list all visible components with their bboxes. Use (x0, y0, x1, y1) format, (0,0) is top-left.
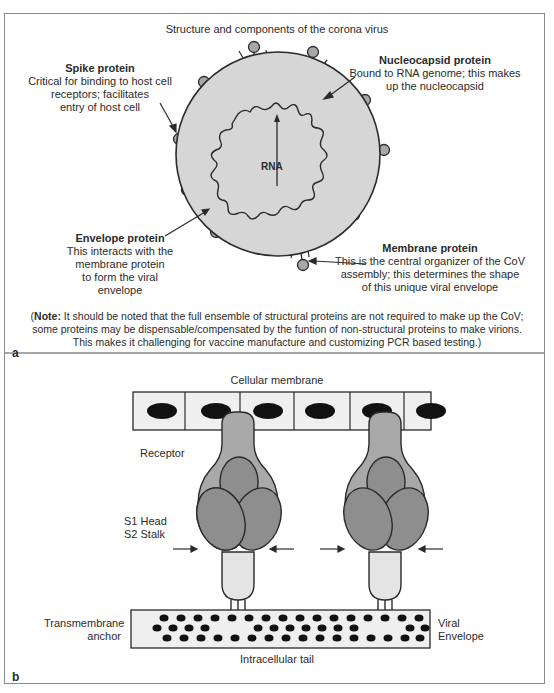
membrane-line: assembly; this determines the shape (330, 268, 530, 281)
note-line-2: some proteins may be dispensable/compens… (0, 323, 554, 336)
spike-line: entry of host cell (20, 101, 180, 114)
envelope-line: membrane protein (60, 258, 180, 271)
panel-a-letter: a (12, 346, 19, 360)
note-prefix: Note: (34, 310, 61, 322)
nucleocapsid-line: up the nucleocapsid (345, 80, 525, 93)
panel-a-title: Structure and components of the corona v… (0, 23, 554, 36)
spike-unit-right (335, 412, 436, 610)
panel-b-letter: b (12, 670, 19, 684)
rna-label: RNA (261, 160, 283, 173)
spike-protein-label: Spike protein Critical for binding to ho… (20, 62, 180, 114)
cellular-membrane-label: Cellular membrane (0, 374, 554, 387)
intracellular-tail-label: Intracellular tail (0, 653, 554, 666)
nucleocapsid-heading: Nucleocapsid protein (345, 54, 525, 67)
envelope-line: This interacts with the (60, 245, 180, 258)
viral-envelope-label: Viral Envelope (438, 617, 484, 643)
envelope-heading: Envelope protein (60, 232, 180, 245)
envelope-line: Envelope (438, 630, 484, 643)
note-line-1: It should be noted that the full ensembl… (61, 310, 523, 322)
nucleocapsid-line: Bound to RNA genome; this makes (345, 67, 525, 80)
s2-stalk-label: S2 Stalk (124, 528, 165, 541)
receptor-label: Receptor (140, 447, 185, 460)
nucleocapsid-protein-label: Nucleocapsid protein Bound to RNA genome… (345, 54, 525, 93)
spike-heading: Spike protein (20, 62, 180, 75)
membrane-heading: Membrane protein (330, 242, 530, 255)
note-line-3: This makes it challenging for vaccine ma… (0, 336, 554, 349)
spike-unit-left (188, 412, 289, 610)
envelope-protein-label: Envelope protein This interacts with the… (60, 232, 180, 297)
transmembrane-anchor-label: Transmembrane anchor (44, 617, 121, 643)
envelope-line: to form the viral (60, 271, 180, 284)
spike-line: Critical for binding to host cell (20, 75, 180, 88)
anchor-line: anchor (44, 630, 121, 643)
membrane-line: of this unique viral envelope (330, 281, 530, 294)
viral-line: Viral (438, 617, 484, 630)
envelope-line: envelope (60, 284, 180, 297)
s1-head-label: S1 Head (124, 515, 167, 528)
membrane-protein-label: Membrane protein This is the central org… (330, 242, 530, 294)
note-text: (Note: It should be noted that the full … (0, 310, 554, 349)
transmembrane-line: Transmembrane (44, 617, 121, 630)
membrane-line: This is the central organizer of the CoV (330, 255, 530, 268)
spike-line: receptors; facilitates (20, 88, 180, 101)
viral-envelope (131, 610, 430, 648)
